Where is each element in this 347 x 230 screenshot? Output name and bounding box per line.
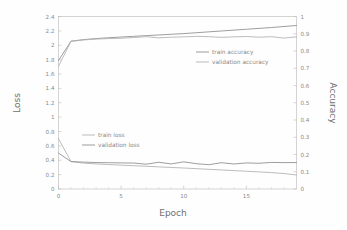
y-axis-right-tick-label: 0.1 xyxy=(301,169,310,175)
y-axis-left-tick-label: 0.4 xyxy=(46,157,55,163)
training-metrics-chart: 00.20.40.60.811.21.41.61.822.22.4 00.10.… xyxy=(0,0,347,230)
y-axis-left-tick-label: 1.6 xyxy=(46,71,55,77)
x-axis-title: Epoch xyxy=(159,208,187,218)
y-axis-right-tick-label: 0 xyxy=(301,186,305,192)
y-axis-right-tick-label: 0.9 xyxy=(301,31,310,37)
y-axis-left-tick-label: 2 xyxy=(51,42,55,48)
x-axis-tick-label: 5 xyxy=(119,193,123,199)
y-axis-right-tick-label: 0.5 xyxy=(301,100,310,106)
legend-label: train accuracy xyxy=(212,49,254,56)
y-axis-right-tick-label: 1 xyxy=(301,14,305,20)
y-axis-left-tick-label: 1 xyxy=(51,114,55,120)
y-axis-right-tick-label: 0.6 xyxy=(301,83,310,89)
legend-label: train loss xyxy=(98,132,125,138)
y-axis-left-tick-label: 1.8 xyxy=(46,57,55,63)
y-axis-left-tick-label: 0.6 xyxy=(46,143,55,149)
y-axis-right-title: Accuracy xyxy=(328,82,338,124)
y-axis-right-tick-label: 0.4 xyxy=(301,117,310,123)
y-axis-left-tick-label: 0 xyxy=(51,186,55,192)
y-axis-right-tick-label: 0.2 xyxy=(301,152,310,158)
y-axis-left-tick-label: 2.4 xyxy=(46,14,55,20)
chart-canvas: 00.20.40.60.811.21.41.61.822.22.4 00.10.… xyxy=(0,0,347,230)
y-axis-right-tick-label: 0.8 xyxy=(301,48,310,54)
y-axis-right-tick-label: 0.3 xyxy=(301,134,310,140)
x-axis-tick-label: 0 xyxy=(57,193,61,199)
legend-label: validation accuracy xyxy=(212,59,269,66)
y-axis-left-title: Loss xyxy=(12,93,22,113)
legend-label: validation loss xyxy=(98,142,140,148)
y-axis-left-tick-label: 0.2 xyxy=(46,172,55,178)
y-axis-left-tick-label: 0.8 xyxy=(46,129,55,135)
x-axis-tick-label: 15 xyxy=(243,193,251,199)
x-axis-tick-label: 10 xyxy=(180,193,188,199)
y-axis-right-tick-label: 0.7 xyxy=(301,65,310,71)
y-axis-left-tick-label: 2.2 xyxy=(46,28,55,34)
y-axis-left-tick-label: 1.4 xyxy=(46,85,55,91)
y-axis-left-tick-label: 1.2 xyxy=(46,100,55,106)
